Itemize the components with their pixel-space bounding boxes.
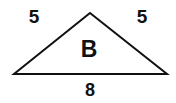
label-triangle-name: B — [76, 38, 102, 61]
geometry-figure: 5 5 B 8 — [0, 0, 176, 103]
label-right-side-length: 5 — [130, 7, 154, 26]
label-left-side-length: 5 — [22, 7, 46, 26]
label-base-length: 8 — [78, 81, 102, 99]
